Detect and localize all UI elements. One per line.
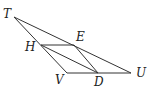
segment-ED bbox=[74, 45, 98, 73]
segment-HD bbox=[41, 45, 98, 73]
point-label-E: E bbox=[75, 30, 85, 44]
point-label-D: D bbox=[93, 75, 104, 89]
geometry-diagram: THEVDU bbox=[0, 0, 152, 92]
labels: THEVDU bbox=[3, 7, 147, 89]
point-label-V: V bbox=[55, 73, 65, 87]
point-label-H: H bbox=[24, 40, 36, 54]
point-label-T: T bbox=[3, 7, 12, 21]
point-label-U: U bbox=[136, 66, 147, 80]
